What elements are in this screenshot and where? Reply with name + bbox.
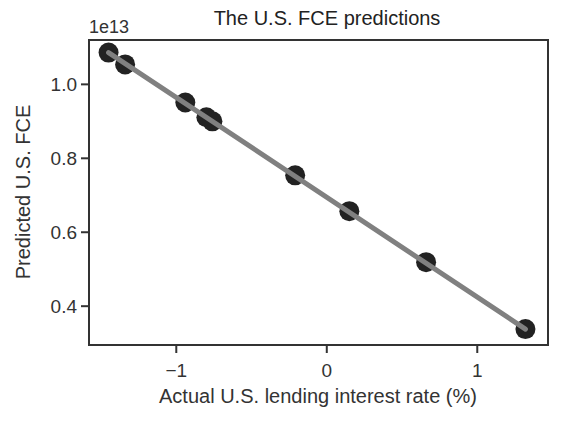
chart-title: The U.S. FCE predictions <box>214 7 441 29</box>
y-tick-label: 0.4 <box>51 296 78 317</box>
x-axis: −101 <box>165 345 482 381</box>
y-tick-label: 0.8 <box>51 148 77 169</box>
x-tick-label: 0 <box>321 360 332 381</box>
plot-area <box>99 43 536 340</box>
fit-line <box>109 53 526 330</box>
x-axis-label: Actual U.S. lending interest rate (%) <box>159 385 477 407</box>
y-offset-label: 1e13 <box>89 17 129 37</box>
y-tick-label: 0.6 <box>51 222 77 243</box>
x-tick-label: −1 <box>165 360 187 381</box>
x-tick-label: 1 <box>472 360 483 381</box>
y-axis: 0.40.60.81.0 <box>51 74 89 317</box>
y-axis-label: Predicted U.S. FCE <box>12 105 34 280</box>
y-tick-label: 1.0 <box>51 74 77 95</box>
chart: The U.S. FCE predictions 1e13 −101 0.40.… <box>0 0 561 427</box>
